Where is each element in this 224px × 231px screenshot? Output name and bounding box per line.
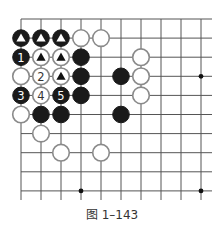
figure-caption: 图 1–143 — [0, 205, 224, 222]
black-stone — [113, 106, 130, 123]
white-stone — [133, 87, 150, 104]
white-stone — [73, 30, 90, 47]
move-number: 1 — [17, 51, 24, 65]
white-stone — [33, 125, 50, 142]
star-point — [199, 189, 204, 194]
white-stone — [93, 144, 110, 161]
white-stone — [133, 49, 150, 66]
black-stone — [73, 68, 90, 85]
move-number: 4 — [37, 89, 44, 103]
black-stone — [73, 49, 90, 66]
star-point — [79, 189, 84, 194]
move-number: 5 — [57, 89, 64, 103]
move-number: 3 — [17, 89, 24, 103]
white-stone — [93, 30, 110, 47]
black-stone — [113, 68, 130, 85]
white-stone — [133, 68, 150, 85]
move-number: 2 — [37, 70, 44, 84]
black-stone — [73, 87, 90, 104]
white-stone — [53, 144, 70, 161]
go-board: 12345 — [0, 0, 224, 205]
star-point — [199, 74, 204, 79]
black-stone — [53, 106, 70, 123]
white-stone — [13, 68, 30, 85]
white-stone — [13, 106, 30, 123]
black-stone — [33, 106, 50, 123]
